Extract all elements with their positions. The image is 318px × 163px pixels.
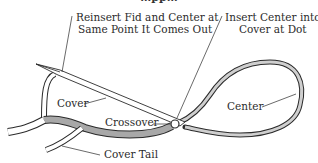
label-reinsert-line2: Same Point It Comes Out	[76, 24, 218, 36]
label-insert-line2: Cover at Dot	[225, 24, 318, 36]
label-cover-tail: Cover Tail	[104, 149, 158, 161]
label-reinsert: Reinsert Fid and Center at Same Point It…	[76, 12, 218, 35]
label-insert-line1: Insert Center into	[225, 12, 318, 24]
label-cover: Cover	[57, 98, 89, 110]
label-crossover: Crossover	[105, 117, 159, 129]
crossover-dot	[171, 120, 179, 128]
label-reinsert-line1: Reinsert Fid and Center at	[76, 12, 218, 24]
label-insert: Insert Center into Cover at Dot	[225, 12, 318, 35]
label-center: Center	[227, 101, 263, 113]
